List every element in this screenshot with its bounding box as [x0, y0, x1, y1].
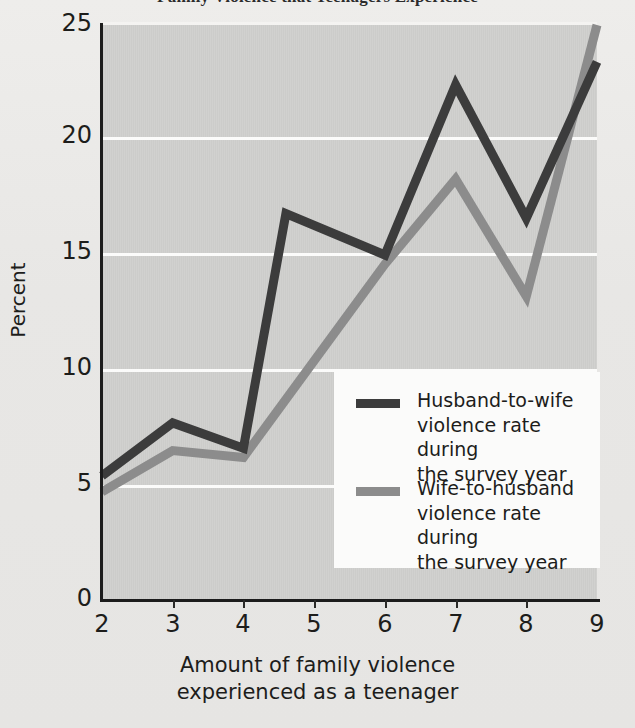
- legend-label-wife-to-husband: Wife-to-husband violence rate during the…: [417, 476, 600, 575]
- legend-item-wife-to-husband: Wife-to-husband violence rate during the…: [356, 476, 600, 575]
- x-tick-mark-7: [456, 600, 458, 608]
- x-tick-mark-4: [243, 600, 245, 608]
- y-axis-line: [100, 23, 103, 602]
- y-axis-label: Percent: [6, 262, 30, 337]
- x-tick-6: 6: [365, 610, 405, 638]
- x-tick-mark-5: [314, 600, 316, 608]
- legend-item-husband-to-wife: Husband-to-wife violence rate during the…: [356, 388, 600, 487]
- x-axis-label-line1: Amount of family violence: [0, 652, 635, 679]
- x-tick-mark-8: [526, 600, 528, 608]
- legend: Husband-to-wife violence rate during the…: [334, 372, 600, 568]
- x-tick-mark-3: [173, 600, 175, 608]
- x-axis-line: [100, 599, 600, 602]
- x-axis-label: Amount of family violence experienced as…: [0, 652, 635, 706]
- x-tick-8: 8: [506, 610, 546, 638]
- x-tick-4: 4: [223, 610, 263, 638]
- x-tick-mark-6: [385, 600, 387, 608]
- x-tick-9: 9: [577, 610, 617, 638]
- x-tick-5: 5: [294, 610, 334, 638]
- chart-page: Family Violence that Teenagers Experienc…: [0, 0, 635, 728]
- legend-label-husband-to-wife: Husband-to-wife violence rate during the…: [417, 388, 600, 487]
- x-axis-label-line2: experienced as a teenager: [0, 679, 635, 706]
- x-tick-7: 7: [436, 610, 476, 638]
- x-tick-2: 2: [82, 610, 122, 638]
- legend-swatch-wife-to-husband: [356, 487, 400, 496]
- legend-swatch-husband-to-wife: [356, 399, 400, 408]
- x-tick-3: 3: [153, 610, 193, 638]
